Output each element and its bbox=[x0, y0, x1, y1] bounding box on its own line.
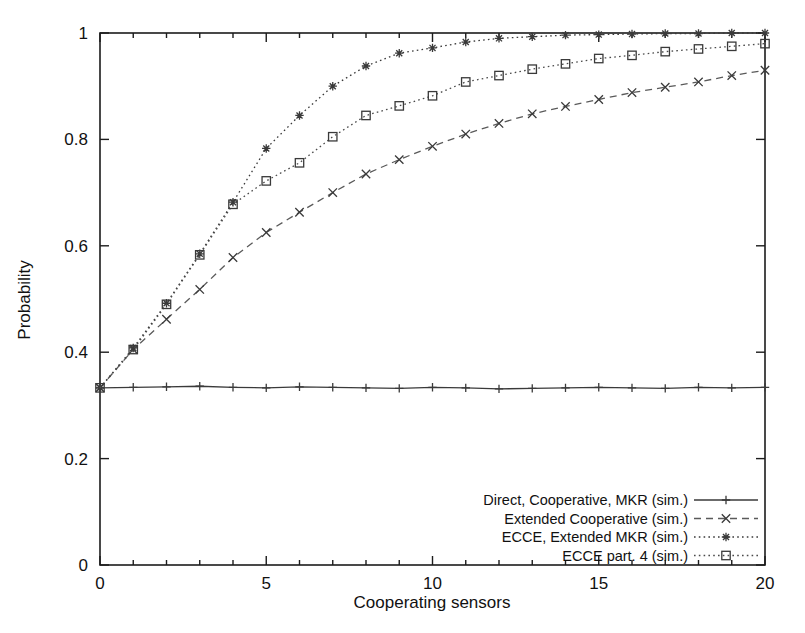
data-point-marker bbox=[428, 44, 436, 52]
probability-vs-cooperating-sensors-chart: 05101520 00.20.40.60.81 Cooperating sens… bbox=[0, 0, 805, 633]
data-point-marker bbox=[262, 144, 270, 152]
x-axis-title: Cooperating sensors bbox=[354, 593, 511, 612]
data-point-marker bbox=[595, 30, 603, 38]
legend-label-3: ECCE part. 4 (sim.) bbox=[562, 548, 688, 564]
data-point-marker bbox=[761, 29, 769, 37]
x-tick-label: 15 bbox=[589, 574, 608, 593]
data-point-marker bbox=[462, 38, 470, 46]
data-point-marker bbox=[395, 49, 403, 57]
x-tick-label: 5 bbox=[262, 574, 271, 593]
legend-label-1: Extended Cooperative (sim.) bbox=[504, 511, 688, 527]
y-tick-label: 0 bbox=[79, 556, 88, 575]
x-tick-label: 10 bbox=[423, 574, 442, 593]
data-point-marker bbox=[628, 30, 636, 38]
y-tick-label: 1 bbox=[79, 24, 88, 43]
legend-label-0: Direct, Cooperative, MKR (sim.) bbox=[483, 492, 688, 508]
data-point-marker bbox=[96, 384, 104, 392]
data-point-marker bbox=[362, 62, 370, 70]
data-point-marker bbox=[495, 34, 503, 42]
y-tick-label: 0.6 bbox=[64, 237, 88, 256]
chart-figure: 05101520 00.20.40.60.81 Cooperating sens… bbox=[0, 0, 805, 633]
y-tick-label: 0.8 bbox=[64, 130, 88, 149]
y-axis-title: Probability bbox=[15, 260, 34, 340]
x-tick-label: 20 bbox=[756, 574, 775, 593]
data-point-marker bbox=[694, 29, 702, 37]
legend-label-2: ECCE, Extended MKR (sim.) bbox=[502, 529, 688, 545]
data-point-marker bbox=[295, 111, 303, 119]
data-point-marker bbox=[528, 33, 536, 41]
data-point-marker bbox=[728, 29, 736, 37]
data-point-marker bbox=[329, 82, 337, 90]
data-point-marker bbox=[661, 29, 669, 37]
y-tick-label: 0.4 bbox=[64, 343, 88, 362]
data-point-marker bbox=[561, 31, 569, 39]
y-tick-label: 0.2 bbox=[64, 450, 88, 469]
x-tick-label: 0 bbox=[95, 574, 104, 593]
data-point-marker bbox=[722, 533, 730, 541]
